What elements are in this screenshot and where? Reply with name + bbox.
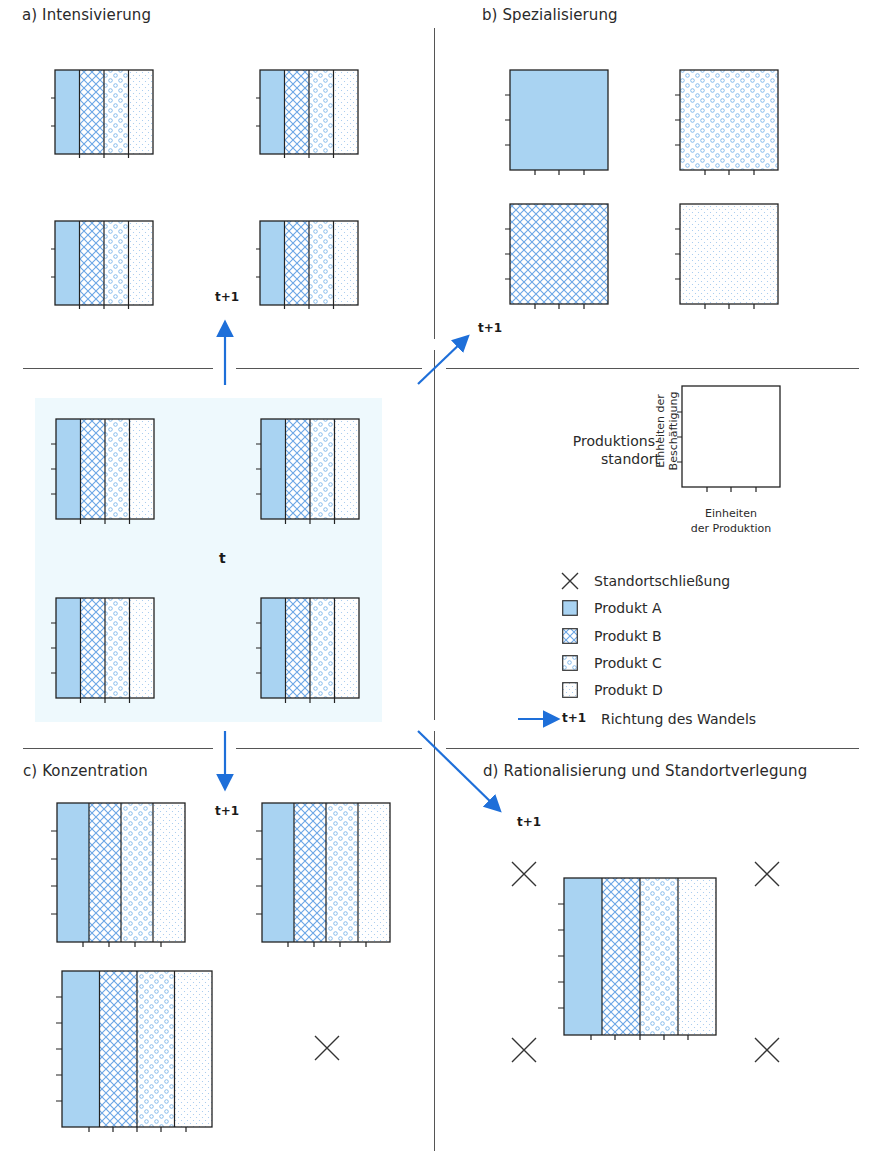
panel-d-site-relocated [555,876,719,1046]
crosshatch-swatch-icon [562,628,578,644]
closure-x-icon [314,1035,340,1061]
panel-a-site-4 [253,219,361,311]
solid-swatch-icon [562,600,578,616]
vertical-divider-top [434,28,435,339]
panel-a-site-3 [48,219,156,311]
legend-item-closure: Standortschließung [560,571,730,591]
horizontal-divider-top-left-a [23,368,213,369]
key-site-label-line2: standort [540,450,660,468]
horizontal-divider-bottom-left-b [236,748,422,749]
closure-x-icon [754,861,780,887]
panel-b-site-product-d [670,202,782,312]
horizontal-divider-top-right [446,368,859,369]
circles-swatch-icon [562,655,578,671]
panel-d-time-label: t+1 [517,815,541,829]
legend-item-product-a: Produkt A [560,598,662,618]
key-site-label: Produktions- standort [540,432,660,468]
legend-label: Standortschließung [594,573,730,589]
panel-d-title: d) Rationalisierung und Standortverlegun… [483,762,807,780]
legend-label: Produkt B [594,628,662,644]
legend-label: Produkt D [594,682,663,698]
closure-x-icon [754,1037,780,1063]
dots-swatch-icon [562,682,578,698]
center-site-3 [48,596,156,706]
center-site-1 [48,417,156,527]
panel-a-site-1 [48,68,156,160]
horizontal-divider-bottom-right [446,748,859,749]
panel-c-title: c) Konzentration [23,762,148,780]
panel-c-site-2 [253,801,395,949]
panel-b-title: b) Spezialisierung [482,6,618,24]
arrow-up-right-icon [418,339,465,384]
panel-c-site-1 [48,801,190,949]
vertical-divider-middle [434,350,435,720]
legend-item-product-b: Produkt B [560,626,662,646]
closure-x-icon [511,861,537,887]
legend-label: Produkt A [594,600,662,616]
panel-c-site-3-expanded [54,969,216,1139]
key-empty-site-chart [676,384,782,494]
key-site-label-line1: Produktions- [540,432,660,450]
panel-b-site-product-c [670,68,782,178]
legend-label: Produkt C [594,655,662,671]
center-time-label: t [219,550,226,566]
panel-a-title: a) Intensivierung [22,6,151,24]
key-y-axis-line1: Einheiten der [654,381,667,481]
legend-arrow-time-label: t+1 [562,711,586,725]
panel-b-time-label: t+1 [478,321,502,335]
key-x-axis-line2: der Produktion [676,521,786,536]
panel-b-site-product-a [500,68,612,178]
closure-x-icon [511,1037,537,1063]
legend-item-direction: Richtung des Wandels [601,709,756,729]
key-x-axis-line1: Einheiten [676,506,786,521]
x-mark-icon [560,571,580,591]
horizontal-divider-bottom-left-a [23,748,213,749]
key-x-axis-label: Einheiten der Produktion [676,506,786,536]
panel-c-time-label: t+1 [215,804,239,818]
panel-a-time-label: t+1 [215,290,239,304]
legend-item-product-c: Produkt C [560,653,662,673]
panel-b-site-product-b [500,202,612,312]
horizontal-divider-top-left-b [236,368,422,369]
center-site-4 [253,596,361,706]
panel-a-site-2 [253,68,361,160]
legend-item-product-d: Produkt D [560,680,663,700]
legend-label: Richtung des Wandels [601,711,756,727]
center-site-2 [253,417,361,527]
vertical-divider-bottom [434,731,435,1151]
